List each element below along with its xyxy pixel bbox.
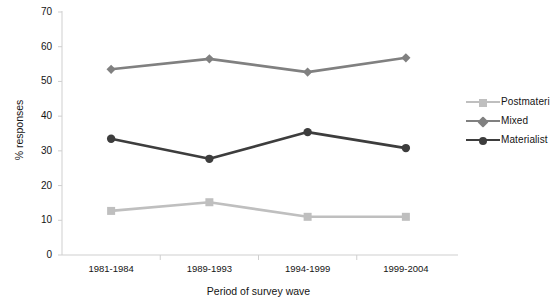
data-point-materialist — [107, 135, 115, 143]
y-axis-tick-label: 50 — [26, 76, 52, 86]
data-point-mixed — [303, 67, 312, 76]
y-axis-tick-label: 30 — [26, 146, 52, 156]
y-axis-title: % responses — [13, 70, 25, 190]
x-axis-title: Period of survey wave — [62, 285, 455, 297]
series-line-materialist — [111, 132, 406, 159]
data-point-materialist — [303, 128, 311, 136]
legend-swatch-diamond-icon — [466, 115, 500, 127]
y-axis-tick-label: 10 — [26, 215, 52, 225]
legend-swatch-circle-icon — [466, 134, 500, 146]
data-point-postmateri — [402, 213, 410, 221]
y-axis-tick-label: 40 — [26, 111, 52, 121]
legend-item-materialist[interactable]: Materialist — [466, 130, 554, 149]
data-point-materialist — [402, 144, 410, 152]
data-point-mixed — [107, 65, 116, 74]
series-line-mixed — [111, 58, 406, 72]
data-point-postmateri — [304, 213, 312, 221]
legend-marker-diamond-icon — [477, 116, 488, 127]
y-axis-tick-label: 70 — [26, 7, 52, 17]
series-line-postmateri — [111, 202, 406, 217]
legend-label: Materialist — [501, 134, 548, 145]
legend-label: Postmateri — [501, 96, 550, 107]
data-point-postmateri — [107, 207, 115, 215]
data-point-mixed — [205, 54, 214, 63]
data-point-postmateri — [205, 198, 213, 206]
y-axis-tick-label: 20 — [26, 181, 52, 191]
x-axis-tick-label: 1994-1999 — [263, 264, 353, 274]
y-axis-tick-label: 60 — [26, 42, 52, 52]
legend-item-mixed[interactable]: Mixed — [466, 111, 554, 130]
x-axis-tick-label: 1999-2004 — [361, 264, 451, 274]
legend-marker-square-icon — [479, 99, 487, 107]
legend-marker-circle-icon — [479, 137, 487, 145]
legend-swatch-square-icon — [466, 96, 500, 108]
x-axis-tick-label: 1989-1993 — [164, 264, 254, 274]
data-point-materialist — [205, 155, 213, 163]
y-axis-tick-label: 0 — [26, 250, 52, 260]
legend-label: Mixed — [501, 115, 528, 126]
x-axis-tick-label: 1981-1984 — [66, 264, 156, 274]
data-point-mixed — [401, 53, 410, 62]
legend-item-postmateri[interactable]: Postmateri — [466, 92, 554, 111]
chart-legend: PostmateriMixedMaterialist — [466, 92, 554, 149]
